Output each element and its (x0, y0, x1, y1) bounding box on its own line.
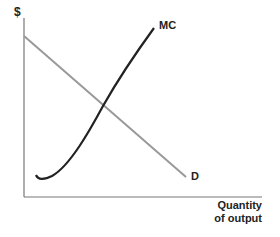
mc-label: MC (159, 19, 176, 32)
x-axis-label-line2: of output (214, 212, 262, 225)
x-axis-label: Quantity of output (214, 199, 262, 225)
marginal-cost-curve (36, 28, 154, 179)
y-axis-label: $ (14, 6, 21, 19)
x-axis-label-line1: Quantity (214, 199, 262, 212)
demand-curve (24, 36, 186, 177)
d-label: D (191, 170, 199, 183)
